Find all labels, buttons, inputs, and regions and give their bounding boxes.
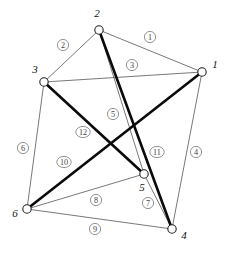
graph-edge-label-4: 4 (194, 148, 198, 157)
graph-figure: 123456789101112 123456 (0, 0, 226, 255)
graph-edge-label-2: 2 (61, 41, 65, 50)
graph-edge-label-3: 3 (130, 61, 134, 70)
graph-node-4 (168, 225, 176, 233)
graph-canvas: 123456789101112 123456 (0, 0, 226, 255)
graph-node-label-3: 3 (31, 63, 38, 75)
graph-node-5 (140, 170, 148, 178)
graph-edge-6 (27, 82, 44, 209)
graph-node-label-5: 5 (139, 181, 145, 193)
graph-edge-label-8: 8 (94, 196, 98, 205)
graph-node-label-1: 1 (212, 58, 218, 70)
graph-edge-8 (27, 174, 144, 209)
graph-edge-label-9: 9 (93, 225, 97, 234)
graph-edge-11 (99, 30, 172, 229)
graph-node-label-2: 2 (94, 7, 100, 19)
graph-node-3 (40, 78, 48, 86)
graph-edge-3 (44, 72, 202, 82)
graph-node-label-4: 4 (181, 229, 187, 241)
graph-node-2 (95, 26, 103, 34)
edges-layer (27, 30, 202, 229)
graph-edge-label-6: 6 (21, 144, 25, 153)
graph-edge-label-12: 12 (79, 128, 87, 137)
graph-edge-label-5: 5 (111, 110, 115, 119)
graph-edge-label-1: 1 (148, 33, 152, 42)
graph-edge-label-7: 7 (146, 199, 150, 208)
graph-edge-label-10: 10 (60, 158, 68, 167)
graph-node-1 (198, 68, 206, 76)
graph-edge-2 (44, 30, 99, 82)
graph-node-label-6: 6 (12, 207, 18, 219)
graph-edge-label-11: 11 (153, 148, 161, 157)
graph-edge-10 (27, 72, 202, 209)
node-labels-layer: 123456 (12, 7, 218, 241)
graph-node-6 (23, 205, 31, 213)
